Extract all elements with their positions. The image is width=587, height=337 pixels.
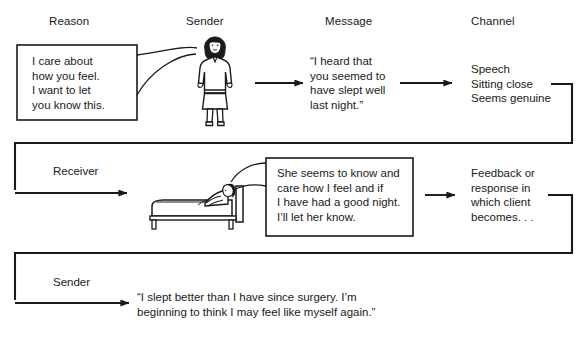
thought-tail-lower-row1 — [137, 54, 196, 95]
column-header-reason: Reason — [49, 15, 89, 29]
message-text-row3: “I slept better than I have since surger… — [137, 290, 375, 320]
patient-in-bed-figure — [150, 184, 243, 229]
reason-thought-text-row1: I care about how you feel. I want to let… — [32, 54, 105, 112]
communication-process-diagram: Reason Sender Message Channel I care abo… — [0, 0, 587, 337]
channel-text-row2: Feedback or response in which client bec… — [471, 166, 535, 224]
role-label-receiver-row2: Receiver — [53, 165, 98, 179]
column-header-sender: Sender — [186, 15, 224, 29]
standing-woman-figure — [198, 37, 232, 126]
thought-tail-upper-row1 — [137, 47, 197, 55]
receiver-thought-text-row2: She seems to know and care how I feel an… — [277, 166, 400, 224]
message-text-row1: “I heard that you seemed to have slept w… — [310, 54, 385, 112]
channel-text-row1: Speech Sitting close Seems genuine — [471, 62, 551, 106]
role-label-sender-row3: Sender — [53, 276, 90, 290]
column-header-channel: Channel — [471, 15, 515, 29]
thought-tail-upper-row2 — [231, 163, 266, 182]
column-header-message: Message — [325, 15, 372, 29]
